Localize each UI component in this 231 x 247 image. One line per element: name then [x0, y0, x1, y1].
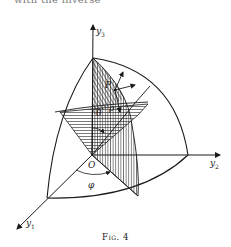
point-p-label: P: [104, 80, 112, 90]
origin-label: O: [88, 160, 96, 170]
phi-label: φ: [88, 180, 95, 190]
spherical-coordinates-diagram: y3 y2 y1 P O θ ρ φ: [0, 0, 231, 247]
figure-caption: Fig. 4: [0, 232, 231, 242]
theta-label: θ: [96, 108, 102, 118]
y3-label: y3: [95, 26, 105, 38]
point-p-dot: [114, 89, 117, 92]
y1-label: y1: [25, 218, 35, 230]
unit-vector-up: [115, 72, 123, 90]
radius-extension: [135, 86, 150, 103]
phi-arc: [76, 170, 110, 175]
y2-label: y2: [209, 158, 219, 170]
rho-label: ρ: [108, 103, 115, 113]
